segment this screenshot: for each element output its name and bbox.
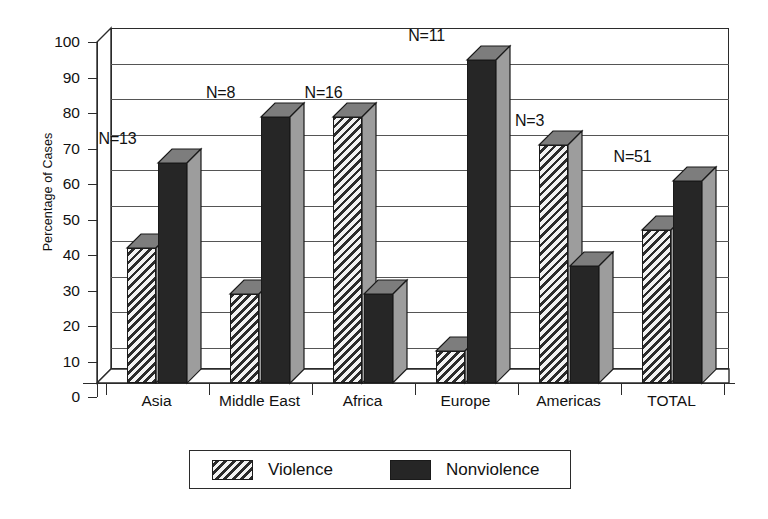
chart-legend: ViolenceNonviolence bbox=[189, 450, 571, 489]
x-axis-category-label: Middle East bbox=[208, 392, 311, 410]
y-axis-tick-label: 0 bbox=[71, 389, 80, 405]
y-axis-tick bbox=[88, 291, 97, 292]
y-axis-tick bbox=[88, 42, 97, 43]
gridline bbox=[111, 135, 729, 136]
bar-violence bbox=[230, 294, 259, 383]
bar-3d-faces bbox=[467, 46, 514, 387]
gridline bbox=[111, 64, 729, 65]
y-axis-tick bbox=[88, 362, 97, 363]
legend-item-violence[interactable]: Violence bbox=[212, 451, 333, 488]
y-axis-tick bbox=[88, 397, 97, 398]
y-axis-tick-label: 90 bbox=[63, 70, 80, 86]
y-axis-tick-label: 100 bbox=[54, 34, 80, 50]
y-axis-tick-label: 80 bbox=[63, 105, 80, 121]
hatched-swatch-icon bbox=[212, 460, 253, 480]
y-axis-tick-label: 70 bbox=[63, 141, 80, 157]
y-axis-tick-label: 50 bbox=[63, 212, 80, 228]
y-axis-line bbox=[97, 42, 98, 397]
x-axis-category-label: TOTAL bbox=[620, 392, 723, 410]
bar-3d-faces bbox=[364, 280, 411, 387]
bar-3d-faces bbox=[158, 149, 205, 387]
legend-label: Nonviolence bbox=[446, 461, 540, 478]
bar-count-annotation: N=16 bbox=[289, 85, 359, 101]
y-axis-tick-label: 10 bbox=[63, 354, 80, 370]
bar-count-annotation: N=3 bbox=[495, 113, 565, 129]
y-axis-tick bbox=[88, 184, 97, 185]
y-axis-tick bbox=[88, 326, 97, 327]
y-axis-tick-label: 40 bbox=[63, 247, 80, 263]
y-axis-tick-label: 20 bbox=[63, 318, 80, 334]
x-axis-tick bbox=[724, 383, 725, 395]
bar-nonviolence bbox=[467, 60, 496, 383]
bar-chart-figure: Percentage of Cases 01020304050607080901… bbox=[0, 0, 768, 519]
bar-3d-faces bbox=[261, 103, 308, 387]
y-axis-tick bbox=[88, 220, 97, 221]
solid-swatch-icon bbox=[390, 460, 431, 480]
y-axis-tick-label: 30 bbox=[63, 283, 80, 299]
bar-violence bbox=[642, 230, 671, 383]
y-axis-tick bbox=[88, 255, 97, 256]
x-axis-category-label: Asia bbox=[105, 392, 208, 410]
bar-nonviolence bbox=[261, 117, 290, 383]
x-axis-category-label: Americas bbox=[517, 392, 620, 410]
bar-3d-faces bbox=[673, 167, 720, 387]
bar-count-annotation: N=8 bbox=[186, 85, 256, 101]
bar-nonviolence bbox=[158, 163, 187, 383]
bar-violence bbox=[539, 145, 568, 383]
bar-count-annotation: N=13 bbox=[83, 131, 153, 147]
y-axis-tick-label: 60 bbox=[63, 176, 80, 192]
bar-count-annotation: N=51 bbox=[598, 149, 668, 165]
bar-nonviolence bbox=[673, 181, 702, 383]
bar-violence bbox=[127, 248, 156, 383]
y-axis-tick bbox=[88, 113, 97, 114]
bar-count-annotation: N=11 bbox=[392, 28, 462, 44]
y-axis-tick-labels: 0102030405060708090100 bbox=[22, 0, 80, 519]
bar-nonviolence bbox=[364, 294, 393, 383]
legend-label: Violence bbox=[268, 461, 333, 478]
bar-nonviolence bbox=[570, 266, 599, 383]
x-axis-category-label: Europe bbox=[414, 392, 517, 410]
x-axis-category-label: Africa bbox=[311, 392, 414, 410]
bar-violence bbox=[436, 351, 465, 383]
bar-violence bbox=[333, 117, 362, 383]
bar-3d-faces bbox=[570, 252, 617, 387]
legend-item-nonviolence[interactable]: Nonviolence bbox=[390, 451, 540, 488]
y-axis-tick bbox=[88, 149, 97, 150]
y-axis-tick bbox=[88, 78, 97, 79]
